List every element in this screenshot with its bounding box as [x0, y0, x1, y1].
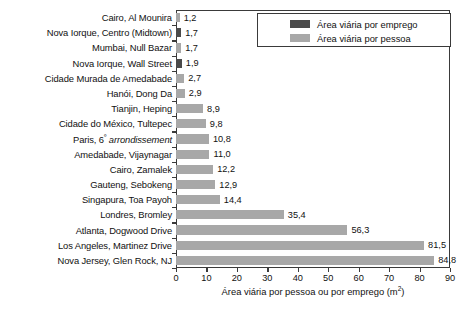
legend-swatch-emprego	[290, 20, 310, 28]
bar	[176, 165, 213, 174]
legend-item: Área viária por emprego	[290, 18, 450, 30]
bar-row: 84,8	[176, 256, 450, 265]
x-tick-mark	[237, 268, 238, 272]
x-tick-mark	[420, 268, 421, 272]
category-tick-mark	[172, 253, 176, 254]
bar	[176, 13, 180, 22]
category-tick-mark	[172, 238, 176, 239]
x-tick-label: 90	[445, 273, 455, 284]
bar	[176, 74, 184, 83]
bar	[176, 28, 181, 37]
bar-value-label: 1,2	[184, 13, 197, 23]
x-axis-title: Área viária por pessoa ou por emprego (m…	[176, 286, 450, 298]
bar	[176, 104, 203, 113]
category-label: Singapura, Toa Payoh	[0, 194, 172, 205]
bar-row: 14,4	[176, 195, 450, 204]
x-tick-mark	[328, 268, 329, 272]
category-tick-mark	[172, 131, 176, 132]
category-tick-mark	[172, 222, 176, 223]
bar-row: 2,7	[176, 74, 450, 83]
x-tick-label: 60	[354, 273, 364, 284]
category-tick-mark	[172, 86, 176, 87]
bar	[176, 89, 185, 98]
bar-row: 1,9	[176, 59, 450, 68]
x-tick-label: 30	[262, 273, 272, 284]
category-tick-mark	[172, 162, 176, 163]
bar-value-label: 14,4	[224, 195, 242, 205]
category-tick-mark	[172, 147, 176, 148]
category-label: Amedabade, Vijaynagar	[0, 149, 172, 160]
bar-row: 8,9	[176, 104, 450, 113]
bar-value-label: 9,8	[210, 119, 223, 129]
category-tick-mark	[172, 177, 176, 178]
category-label: Nova Iorque, Centro (Midtown)	[0, 27, 172, 38]
bar-row: 10,8	[176, 134, 450, 143]
bar-value-label: 1,9	[186, 58, 199, 68]
category-label: Los Angeles, Martinez Drive	[0, 240, 172, 251]
bar	[176, 210, 284, 219]
x-tick-label: 70	[384, 273, 394, 284]
x-tick-label: 40	[293, 273, 303, 284]
category-label: Cairo, Al Mounira	[0, 12, 172, 23]
category-label: Mumbai, Null Bazar	[0, 42, 172, 53]
x-tick-mark	[267, 268, 268, 272]
bar-value-label: 81,5	[428, 240, 446, 250]
bar-row: 35,4	[176, 210, 450, 219]
category-label: Paris, 6º arrondissement	[0, 134, 172, 145]
category-tick-mark	[172, 40, 176, 41]
x-tick-label: 20	[232, 273, 242, 284]
category-tick-mark	[172, 56, 176, 57]
category-label: Nova Jersey, Glen Rock, NJ	[0, 255, 172, 266]
category-label: Londres, Bromley	[0, 209, 172, 220]
category-label: Cidade Murada de Amedabade	[0, 73, 172, 84]
category-axis-labels: Cairo, Al MouniraNova Iorque, Centro (Mi…	[0, 10, 172, 268]
bar-value-label: 2,7	[188, 73, 201, 83]
bar	[176, 59, 182, 68]
x-tick-label: 0	[173, 273, 178, 284]
bar-value-label: 11,0	[213, 149, 230, 159]
bar-value-label: 1,7	[185, 43, 198, 53]
bar-row: 2,9	[176, 89, 450, 98]
x-tick-mark	[176, 268, 177, 272]
category-tick-mark	[172, 207, 176, 208]
bar-value-label: 12,9	[219, 180, 237, 190]
bar	[176, 180, 215, 189]
category-tick-mark	[172, 116, 176, 117]
bar-row: 12,2	[176, 165, 450, 174]
bar-value-label: 1,7	[185, 28, 198, 38]
x-tick-label: 80	[414, 273, 424, 284]
x-tick-mark	[450, 268, 451, 272]
bar	[176, 119, 206, 128]
bar	[176, 43, 181, 52]
category-label: Hanói, Dong Da	[0, 88, 172, 99]
x-axis-ticks: 0102030405060708090	[176, 268, 450, 288]
bar-row: 12,9	[176, 180, 450, 189]
plot-area: 1,21,71,71,92,72,98,99,810,811,012,212,9…	[176, 10, 450, 268]
legend-swatch-pessoa	[290, 34, 310, 42]
bar-value-label: 10,8	[213, 134, 231, 144]
bar-value-label: 56,3	[351, 225, 369, 235]
category-label: Tianjin, Heping	[0, 103, 172, 114]
category-label: Cidade do México, Tultepec	[0, 118, 172, 129]
bar-value-label: 35,4	[288, 210, 306, 220]
category-tick-mark	[172, 25, 176, 26]
bar-value-label: 8,9	[207, 104, 220, 114]
x-tick-mark	[206, 268, 207, 272]
bar	[176, 241, 424, 250]
x-tick-label: 10	[201, 273, 211, 284]
bar-value-label: 84,8	[438, 255, 456, 265]
bar	[176, 195, 220, 204]
x-tick-mark	[359, 268, 360, 272]
bar-row: 56,3	[176, 225, 450, 234]
bar	[176, 134, 209, 143]
chart-legend: Área viária por empregoÁrea viária por p…	[257, 13, 451, 47]
bar	[176, 225, 347, 234]
category-tick-mark	[172, 101, 176, 102]
legend-item: Área viária por pessoa	[290, 32, 450, 44]
legend-label: Área viária por pessoa	[317, 33, 411, 44]
bar	[176, 150, 209, 159]
bar	[176, 256, 434, 265]
x-tick-mark	[389, 268, 390, 272]
bar-row: 9,8	[176, 119, 450, 128]
category-label: Cairo, Zamalek	[0, 164, 172, 175]
